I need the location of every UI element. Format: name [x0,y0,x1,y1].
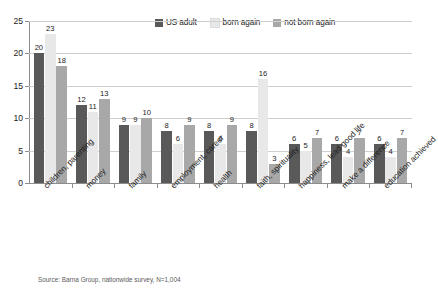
bar-value-label: 10 [143,108,151,117]
bar-group: 121113 [76,21,109,183]
bar-value-label: 8 [164,121,168,130]
bar-group: 869 [161,21,194,183]
bar-value-label: 7 [400,128,404,137]
bar-group: 657 [289,21,322,183]
bar-value-label: 7 [315,128,319,137]
y-tick-mark [25,53,29,54]
bar-value-label: 8 [250,121,254,130]
bar-value-label: 23 [46,24,54,33]
x-axis-labels: children, parentingmoneyfamilyemployment… [29,184,412,272]
bar-value-label: 6 [292,134,296,143]
y-tick-mark [25,86,29,87]
bar[interactable]: 8 [161,131,172,183]
source-note: Source: Barna Group, nationwide survey, … [38,276,181,283]
bar-group: 202318 [34,21,67,183]
bar-value-label: 20 [35,43,43,52]
bar-group: 647 [331,21,364,183]
bar-value-label: 16 [259,69,267,78]
bar-value-label: 12 [77,95,85,104]
bar-value-label: 5 [303,141,307,150]
bar[interactable]: 16 [258,79,269,183]
y-tick-mark [25,21,29,22]
bar-group: 647 [374,21,407,183]
bar-value-label: 18 [57,56,65,65]
bar-value-label: 9 [122,115,126,124]
bar[interactable]: 9 [119,125,130,183]
bar-group: 9910 [119,21,152,183]
y-tick-label: 5 [18,146,23,156]
bar[interactable]: 8 [246,131,257,183]
y-tick-mark [25,118,29,119]
y-tick-label: 0 [18,178,23,188]
y-tick-label: 20 [13,48,23,58]
bar-value-label: 13 [100,89,108,98]
bar-value-label: 6 [176,134,180,143]
plot-area: 0510152025 20231812111399108698698163657… [29,21,412,184]
bar-value-label: 8 [207,121,211,130]
bar[interactable]: 23 [45,34,56,183]
bar-group: 8163 [246,21,279,183]
bar-value-label: 9 [133,115,137,124]
y-tick-label: 10 [13,113,23,123]
bar-value-label: 11 [89,102,97,111]
bar-group: 869 [204,21,237,183]
y-tick-label: 15 [13,81,23,91]
bar-value-label: 4 [346,147,350,156]
bar-value-label: 4 [389,147,393,156]
y-tick-mark [25,151,29,152]
bar-value-label: 9 [230,115,234,124]
bar-value-label: 9 [187,115,191,124]
y-axis-line [29,21,30,184]
bar[interactable]: 20 [34,53,45,183]
y-tick-label: 25 [13,16,23,26]
